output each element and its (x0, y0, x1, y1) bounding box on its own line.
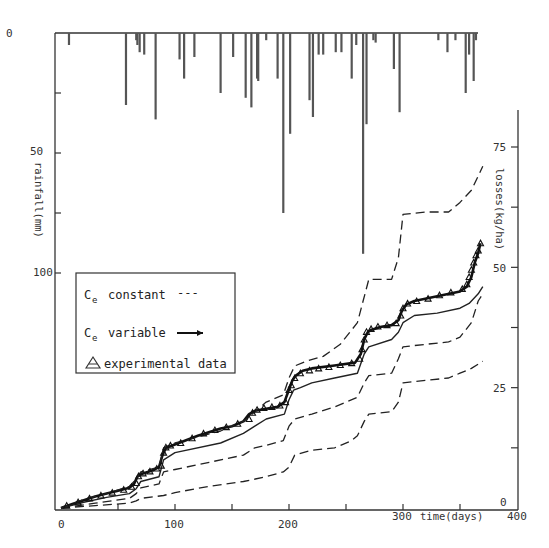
legend-entry-variable-subscript: e (92, 333, 97, 343)
right-tick-label-0: 0 (500, 496, 507, 509)
x-tick-label-100: 100 (164, 518, 184, 531)
legend: C e constant --- C e variable experiment… (76, 273, 235, 373)
legend-entry-constant-subscript: e (92, 295, 97, 305)
legend-entry-variable-symbol: C (84, 326, 91, 340)
x-tick-label-400: 400 (507, 510, 527, 523)
x-tick-label-200: 200 (278, 518, 298, 531)
legend-entry-variable-label: variable (108, 326, 166, 340)
left-tick-label-100: 100 (33, 266, 53, 279)
x-tick-label-0: 0 (58, 518, 65, 531)
legend-entry-experimental-label: experimental data (104, 357, 227, 371)
x-tick-label-300: 300 (392, 510, 412, 523)
x-axis-title: time(days) (420, 510, 483, 522)
series-line-4 (61, 361, 483, 508)
legend-entry-constant-symbol: C (84, 288, 91, 302)
legend-entry-constant-label: constant (108, 288, 166, 302)
left-tick-label-0: 0 (6, 27, 13, 40)
chart: 0 50 100 75 50 25 0 0 100 200 300 400 ti… (0, 0, 549, 548)
left-axis-title: rainfall(mm) (33, 162, 45, 238)
right-tick-label-25: 25 (493, 382, 506, 395)
rainfall-bars (69, 33, 476, 254)
right-tick-label-50: 50 (493, 262, 506, 275)
right-axis-title: losses(kg/ha) (494, 168, 506, 250)
right-tick-label-75: 75 (493, 141, 506, 154)
legend-entry-constant-marker: --- (177, 286, 199, 300)
left-tick-label-50: 50 (30, 145, 43, 158)
axes (55, 33, 518, 510)
